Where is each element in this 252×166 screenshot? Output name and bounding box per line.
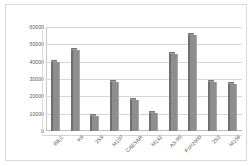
bar[interactable]: [90, 116, 99, 131]
bar-slot: [222, 27, 242, 131]
x-axis-tick-label: 2S9: [93, 134, 104, 145]
y-axis-tick-label: 40000: [8, 59, 44, 65]
y-axis-tick-label: 10000: [8, 111, 44, 117]
plot-area: [46, 27, 242, 131]
bars-layer: [46, 27, 242, 131]
x-axis-tick-label: 2S3: [211, 134, 222, 145]
x-axis-tick-label: PzH2000: [183, 134, 202, 153]
x-axis: 99LCK92S9M107CAESARM142AS-90PzH20002S3M1…: [46, 132, 242, 166]
y-axis-tick-label: 50000: [8, 41, 44, 47]
y-axis-tick-label: 0: [8, 128, 44, 134]
bar[interactable]: [130, 100, 139, 131]
bar[interactable]: [169, 54, 178, 131]
x-axis-tick-label: CAESAR: [124, 134, 143, 153]
y-axis-tick-label: 20000: [8, 93, 44, 99]
bar-slot: [124, 27, 144, 131]
bar[interactable]: [149, 113, 158, 131]
y-axis-tick-label: 30000: [8, 76, 44, 82]
x-axis-tick-label: M109: [228, 134, 241, 147]
bar[interactable]: [51, 62, 60, 131]
bar-slot: [66, 27, 86, 131]
bar-slot: [203, 27, 223, 131]
bar[interactable]: [228, 84, 237, 131]
chart-frame: 6000050000400003000020000100000 99LCK92S…: [5, 4, 247, 161]
y-axis: 6000050000400003000020000100000: [6, 27, 44, 131]
x-axis-tick-label: K9: [76, 134, 85, 143]
bar-chart: 6000050000400003000020000100000 99LCK92S…: [0, 0, 252, 166]
bar[interactable]: [208, 82, 217, 131]
x-axis-tick-label: M107: [110, 134, 123, 147]
bar-slot: [164, 27, 184, 131]
bar-slot: [144, 27, 164, 131]
bar[interactable]: [110, 82, 119, 131]
bar[interactable]: [71, 50, 80, 131]
y-axis-tick-label: 60000: [8, 24, 44, 30]
bar[interactable]: [188, 35, 197, 131]
bar-slot: [85, 27, 105, 131]
x-axis-tick-label: AS-90: [168, 134, 182, 148]
bar-slot: [183, 27, 203, 131]
x-axis-tick-label: 99LC: [52, 134, 65, 147]
bar-slot: [46, 27, 66, 131]
x-axis-tick-label: M142: [150, 134, 163, 147]
bar-slot: [105, 27, 125, 131]
